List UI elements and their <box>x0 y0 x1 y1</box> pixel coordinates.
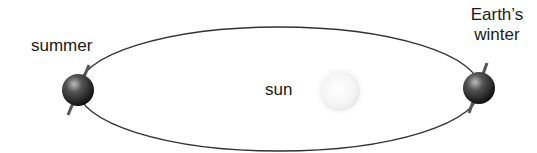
winter-label-line1: Earth’s <box>467 5 527 25</box>
sun-label: sun <box>265 80 292 100</box>
earths-winter-label: Earth’s winter <box>467 5 527 45</box>
earth-summer <box>62 65 94 115</box>
earth-winter <box>463 63 495 113</box>
orbit-diagram <box>0 0 537 153</box>
winter-label-line2: winter <box>467 25 527 45</box>
sun <box>317 68 363 114</box>
summer-label: summer <box>31 36 92 56</box>
